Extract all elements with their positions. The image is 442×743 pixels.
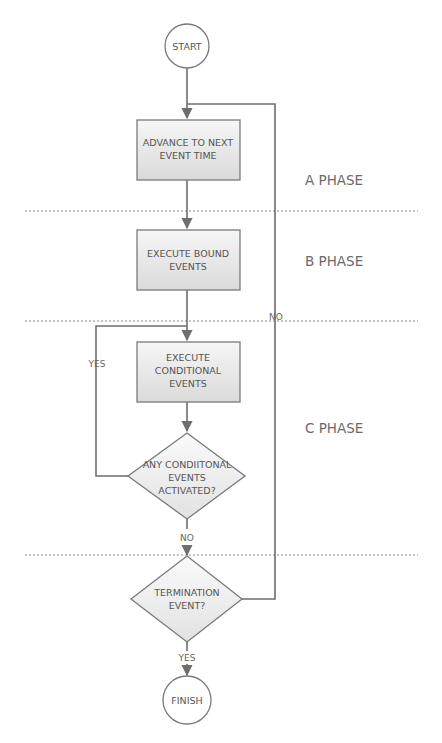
flowchart-canvas: START ADVANCE TO NEXT EVENT TIME EXECUTE… xyxy=(0,0,442,743)
conditional-node: EXECUTE CONDITIONAL EVENTS xyxy=(137,342,240,402)
conditional-label-line2: CONDITIONAL xyxy=(155,365,222,376)
any-activated-decision: ANY CONDIITONAL EVENTS ACTIVATED? xyxy=(128,433,245,519)
phase-label-b: B PHASE xyxy=(305,253,363,269)
any-activated-label-line2: EVENTS xyxy=(168,472,205,483)
any-activated-label-line3: ACTIVATED? xyxy=(158,485,215,496)
termination-decision: TERMINATION EVENT? xyxy=(131,556,242,642)
start-node: START xyxy=(165,24,209,68)
bound-label-line1: EXECUTE BOUND xyxy=(147,248,229,259)
phase-label-a: A PHASE xyxy=(305,172,363,188)
any-no-label: NO xyxy=(180,533,194,543)
conditional-label-line1: EXECUTE xyxy=(166,352,210,363)
bound-label-line2: EVENTS xyxy=(169,261,206,272)
conditional-label-line3: EVENTS xyxy=(169,378,206,389)
start-label: START xyxy=(172,41,202,52)
any-activated-label-line1: ANY CONDIITONAL xyxy=(143,459,232,470)
termination-no-label: NO xyxy=(269,312,283,322)
advance-node: ADVANCE TO NEXT EVENT TIME xyxy=(137,120,240,180)
termination-label-line2: EVENT? xyxy=(169,600,205,611)
advance-label-line2: EVENT TIME xyxy=(159,150,216,161)
finish-node: FINISH xyxy=(163,676,211,724)
yes-loop-label: YES xyxy=(88,359,106,369)
term-yes-label: YES xyxy=(178,653,196,663)
finish-label: FINISH xyxy=(171,695,202,706)
advance-label-line1: ADVANCE TO NEXT xyxy=(143,137,234,148)
termination-label-line1: TERMINATION xyxy=(153,587,219,598)
bound-node: EXECUTE BOUND EVENTS xyxy=(137,230,240,290)
phase-label-c: C PHASE xyxy=(305,420,363,436)
